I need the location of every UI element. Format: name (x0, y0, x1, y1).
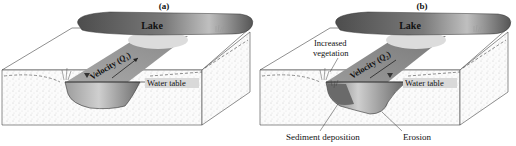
water-table-label: Water table (147, 78, 186, 88)
lake (336, 12, 511, 35)
lake-label: Lake (399, 20, 421, 31)
vegetation-label-line2: vegetation (313, 48, 349, 58)
panel-b-diagram: Lake Velocity (Q2) Increased vegetation … (258, 0, 516, 146)
sediment-deposition-label: Sediment deposition (286, 132, 360, 142)
water-table-label: Water table (405, 78, 444, 88)
lake-label: Lake (141, 20, 163, 31)
lake (78, 12, 253, 35)
panel-a-diagram: Lake Velocity (Q1) Water table (a) (0, 0, 258, 146)
panel-a: Lake Velocity (Q1) Water table (a) (0, 0, 258, 146)
erosion-label: Erosion (403, 132, 431, 142)
panel-b: Lake Velocity (Q2) Increased vegetation … (258, 0, 516, 146)
vegetation-label-line1: Increased (314, 38, 347, 48)
panel-label-a: (a) (159, 1, 170, 11)
panel-label-b: (b) (417, 1, 428, 11)
